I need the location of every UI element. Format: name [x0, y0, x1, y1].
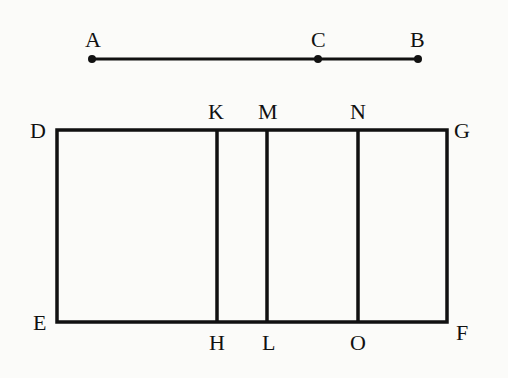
diagram-canvas: A C B D K M N G E H L O F [0, 0, 508, 378]
label-f: F [456, 320, 468, 345]
label-d: D [30, 118, 46, 143]
label-k: K [208, 99, 224, 124]
label-c: C [311, 27, 326, 52]
label-h: H [209, 330, 225, 355]
outer-rectangle [57, 130, 447, 322]
label-n: N [350, 99, 366, 124]
point-a [88, 55, 96, 63]
label-a: A [85, 27, 101, 52]
label-b: B [410, 27, 425, 52]
label-l: L [262, 330, 275, 355]
label-o: O [350, 330, 366, 355]
rectangle-defg: D K M N G E H L O F [30, 99, 470, 355]
label-g: G [454, 118, 470, 143]
label-m: M [258, 99, 278, 124]
segment-ab: A C B [85, 27, 425, 63]
geometry-figure: A C B D K M N G E H L O F [0, 0, 508, 378]
label-e: E [33, 310, 46, 335]
point-b [414, 55, 422, 63]
point-c [314, 55, 322, 63]
